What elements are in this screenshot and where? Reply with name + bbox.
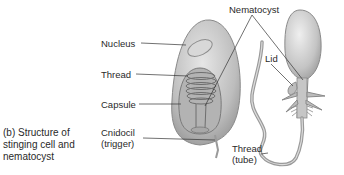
label-cnidocil-trigger: (trigger) bbox=[101, 138, 134, 149]
label-thread-tube-sub: (tube) bbox=[232, 154, 257, 165]
label-nucleus: Nucleus bbox=[101, 38, 135, 49]
caption-line-2: stinging cell and bbox=[3, 139, 75, 151]
label-nematocyst: Nematocyst bbox=[229, 4, 279, 15]
caption-line-1: (b) Structure of bbox=[3, 127, 75, 139]
label-lid: Lid bbox=[265, 53, 278, 64]
label-cnidocil: Cnidocil bbox=[101, 127, 135, 138]
label-thread: Thread bbox=[101, 69, 131, 80]
discharged-nematocyst bbox=[252, 10, 325, 165]
label-thread-tube: Thread bbox=[232, 143, 262, 154]
caption-line-3: nematocyst bbox=[3, 151, 75, 163]
figure-caption: (b) Structure of stinging cell and nemat… bbox=[3, 127, 75, 163]
cnidocyte-cell bbox=[172, 20, 241, 158]
label-capsule: Capsule bbox=[101, 99, 136, 110]
